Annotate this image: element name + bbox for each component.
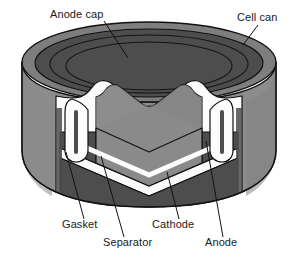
label-anode-cap: Anode cap <box>50 8 104 20</box>
cathode-left-sliver <box>56 108 62 196</box>
label-separator: Separator <box>103 236 152 248</box>
label-anode: Anode <box>205 236 237 248</box>
cell-can-top-inner-ring <box>35 29 263 97</box>
button-cell-cutaway-diagram: Anode cap Cell can Gasket Separator Cath… <box>0 0 298 264</box>
figure-root: Anode cap Cell can Gasket Separator Cath… <box>0 0 298 264</box>
label-gasket: Gasket <box>62 218 97 230</box>
cathode-right-sliver <box>236 108 242 196</box>
label-cell-can: Cell can <box>237 11 278 23</box>
label-cathode: Cathode <box>152 218 194 230</box>
